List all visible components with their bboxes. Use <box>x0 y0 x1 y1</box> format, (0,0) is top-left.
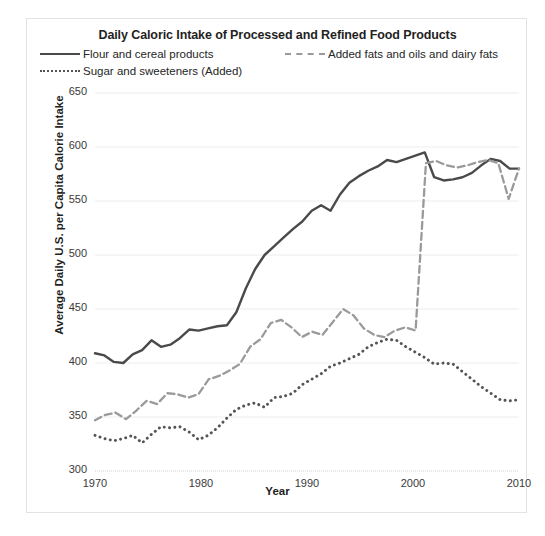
data-series-line <box>95 339 519 443</box>
plot-area: Average Daily U.S. per Capita Calorie In… <box>27 19 528 514</box>
x-axis-tick-label: 1980 <box>178 477 224 489</box>
x-axis-tick-label: 1970 <box>72 477 118 489</box>
plot-svg <box>27 19 528 514</box>
y-axis-tick-label: 500 <box>53 247 87 259</box>
y-axis-tick-label: 550 <box>53 193 87 205</box>
x-axis-tick-label: 2000 <box>390 477 436 489</box>
y-axis-tick-label: 650 <box>53 85 87 97</box>
x-axis-tick-label: 1990 <box>284 477 330 489</box>
data-series-line <box>95 152 519 363</box>
y-axis-tick-label: 600 <box>53 139 87 151</box>
y-axis-title: Average Daily U.S. per Capita Calorie In… <box>53 65 65 365</box>
chart-container: Daily Caloric Intake of Processed and Re… <box>26 18 527 513</box>
y-axis-tick-label: 350 <box>53 409 87 421</box>
y-axis-tick-label: 300 <box>53 463 87 475</box>
y-axis-tick-label: 400 <box>53 355 87 367</box>
x-axis-tick-label: 2010 <box>496 477 542 489</box>
y-axis-tick-label: 450 <box>53 301 87 313</box>
